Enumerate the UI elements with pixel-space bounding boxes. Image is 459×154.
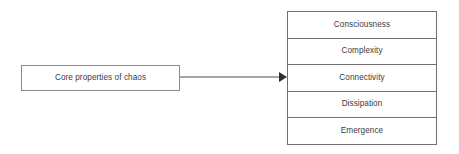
arrowhead-icon bbox=[279, 72, 287, 82]
stack-row-consciousness[interactable]: Consciousness bbox=[288, 12, 436, 39]
properties-stack: Consciousness Complexity Connectivity Di… bbox=[287, 11, 437, 145]
stack-row-emergence[interactable]: Emergence bbox=[288, 118, 436, 144]
source-node-label: Core properties of chaos bbox=[55, 74, 146, 82]
source-node-core-properties[interactable]: Core properties of chaos bbox=[21, 65, 180, 91]
stack-row-label: Dissipation bbox=[342, 100, 383, 108]
stack-row-complexity[interactable]: Complexity bbox=[288, 39, 436, 66]
stack-row-label: Consciousness bbox=[334, 21, 390, 29]
stack-row-label: Emergence bbox=[341, 127, 383, 135]
stack-row-connectivity[interactable]: Connectivity bbox=[288, 65, 436, 92]
connector-arrow bbox=[180, 60, 290, 94]
stack-row-dissipation[interactable]: Dissipation bbox=[288, 92, 436, 119]
chaos-properties-diagram: Core properties of chaos Consciousness C… bbox=[0, 0, 459, 154]
stack-row-label: Connectivity bbox=[339, 74, 384, 82]
stack-row-label: Complexity bbox=[341, 47, 382, 55]
